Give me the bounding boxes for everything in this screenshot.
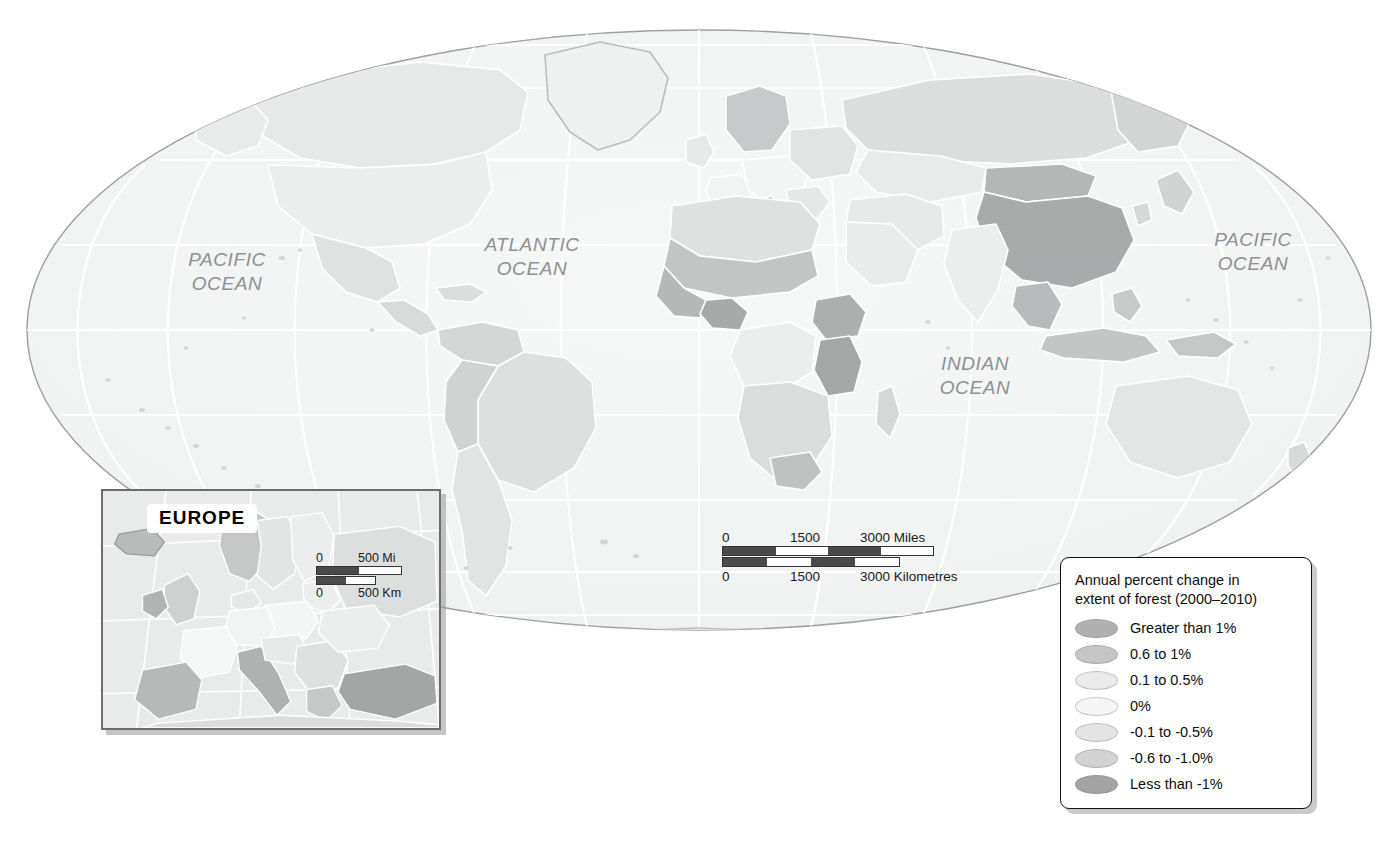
scalebar-seg <box>881 547 934 555</box>
scalebar-seg <box>828 547 881 555</box>
scalebar-seg <box>317 567 359 574</box>
legend-label: -0.1 to -0.5% <box>1130 724 1213 740</box>
legend-row: 0.1 to 0.5% <box>1075 667 1299 693</box>
scalebar-seg <box>723 558 767 566</box>
europe-scalebar-miles-labels: 0 500 Mi <box>316 551 402 565</box>
scalebar-seg <box>723 547 776 555</box>
legend-label: -0.6 to -1.0% <box>1130 750 1213 766</box>
legend-label: 0.1 to 0.5% <box>1130 672 1203 688</box>
legend-row: -0.1 to -0.5% <box>1075 719 1299 745</box>
legend-label: 0% <box>1130 698 1151 714</box>
europe-scalebar-miles-end: 500 Mi <box>358 551 396 565</box>
scalebar-miles-labels: 0 1500 3000 Miles <box>722 530 934 545</box>
europe-inset-map[interactable]: EUROPE 0 500 Mi 0 500 Km <box>101 489 441 730</box>
scalebar-seg <box>767 558 811 566</box>
scalebar-km-end: 3000 Kilometres <box>860 569 958 584</box>
scalebar-seg <box>346 577 375 584</box>
main-scalebar: 0 1500 3000 Miles 0 1500 3000 Kilometres <box>722 530 934 584</box>
europe-scalebar-km-labels: 0 500 Km <box>316 586 402 600</box>
scalebar-km-bar <box>722 557 900 567</box>
scalebar-km-start: 0 <box>722 569 730 584</box>
world-map: PACIFIC OCEAN ATLANTIC OCEAN INDIAN OCEA… <box>0 0 1398 855</box>
legend-row: -0.6 to -1.0% <box>1075 745 1299 771</box>
scalebar-km-mid: 1500 <box>790 569 820 584</box>
scalebar-seg <box>317 577 346 584</box>
legend-swatch <box>1075 775 1118 794</box>
legend-row: Greater than 1% <box>1075 615 1299 641</box>
legend-swatch <box>1075 619 1118 638</box>
legend-row: Less than -1% <box>1075 771 1299 797</box>
scalebar-miles-start: 0 <box>722 530 730 545</box>
legend-rows: Greater than 1%0.6 to 1%0.1 to 0.5%0%-0.… <box>1075 615 1299 797</box>
legend-swatch <box>1075 671 1118 690</box>
europe-scalebar-km-bar <box>316 576 376 585</box>
legend-title: Annual percent change in extent of fores… <box>1075 571 1299 608</box>
legend-label: Greater than 1% <box>1130 620 1236 636</box>
legend-label: Less than -1% <box>1130 776 1223 792</box>
scalebar-seg <box>811 558 855 566</box>
legend-swatch <box>1075 645 1118 664</box>
legend-swatch <box>1075 697 1118 716</box>
scalebar-km-labels: 0 1500 3000 Kilometres <box>722 569 934 584</box>
europe-scalebar-km-end: 500 Km <box>358 586 401 600</box>
scalebar-miles-mid: 1500 <box>790 530 820 545</box>
europe-inset-title: EUROPE <box>147 504 257 533</box>
scalebar-seg <box>776 547 829 555</box>
legend-row: 0.6 to 1% <box>1075 641 1299 667</box>
legend-swatch <box>1075 723 1118 742</box>
map-legend: Annual percent change in extent of fores… <box>1060 557 1312 809</box>
scalebar-miles-end: 3000 Miles <box>860 530 925 545</box>
legend-row: 0% <box>1075 693 1299 719</box>
scalebar-seg <box>855 558 899 566</box>
europe-scalebar-miles-bar <box>316 566 402 575</box>
legend-label: 0.6 to 1% <box>1130 646 1191 662</box>
europe-inset-scalebar: 0 500 Mi 0 500 Km <box>316 551 402 600</box>
scalebar-miles-bar <box>722 546 934 556</box>
europe-scalebar-miles-start: 0 <box>316 551 323 565</box>
europe-scalebar-km-start: 0 <box>316 586 323 600</box>
legend-swatch <box>1075 749 1118 768</box>
scalebar-seg <box>359 567 401 574</box>
